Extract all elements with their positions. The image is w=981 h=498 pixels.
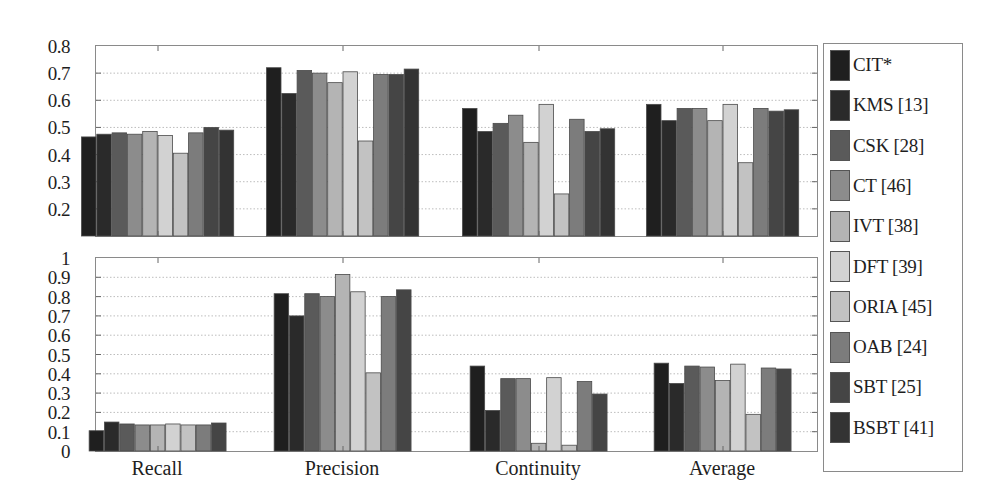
bar-precision-ivt [328,83,343,236]
bar-precision-cit [267,68,282,236]
legend-item: DFT [39] [830,251,923,283]
bar-average-oria [746,414,761,451]
y-tick-label: 0.8 [48,287,70,306]
bar-recall-ivt [143,132,158,237]
bar-continuity-oab [577,382,592,451]
bar-average-oria [738,163,753,236]
legend-label: DFT [39] [853,256,923,278]
legend-label: KMS [13] [853,94,928,116]
legend-swatch-icon [830,211,850,242]
legend-item: IVT [38] [830,210,918,242]
chart-legend: CIT*KMS [13]CSK [28]CT [46]IVT [38]DFT [… [823,43,963,472]
y-tick-label: 0.8 [48,37,70,56]
bar-average-ivt [708,121,723,236]
legend-label: OAB [24] [853,336,927,358]
legend-swatch-icon [830,251,850,282]
bar-average-kms [669,383,684,451]
y-tick-label: 0.6 [48,91,70,110]
bar-continuity-oria [554,194,569,236]
bar-precision-ivt [335,274,350,451]
y-tick-label: 0.5 [48,118,70,137]
bar-average-oab [754,108,769,236]
y-tick-label: 0.2 [48,199,70,218]
bar-precision-kms [282,94,297,237]
bar-recall-bsbt [219,130,234,236]
bar-continuity-sbt [585,132,600,237]
bar-precision-ct [312,73,327,236]
bar-precision-cit [274,294,289,451]
bar-average-ivt [715,381,730,451]
legend-item: BSBT [41] [830,412,934,444]
legend-label: SBT [25] [853,376,922,398]
bar-continuity-kms [478,132,493,237]
bar-recall-oab [189,133,204,236]
bar-precision-ct [320,297,335,451]
legend-item: ORIA [45] [830,291,932,323]
top-bar-chart-panel [95,45,818,237]
bar-continuity-csk [493,123,508,236]
legend-swatch-icon [830,412,850,443]
y-tick-label: 1 [61,249,70,268]
bar-recall-ct [127,134,141,236]
y-tick-label: 0.7 [48,64,70,83]
bar-continuity-ct [508,115,523,236]
y-tick-label: 0.7 [48,306,70,325]
legend-label: CIT* [853,54,892,76]
bottom-bar-chart-panel [95,257,818,452]
x-label-average: Average [689,457,755,480]
y-tick-label: 0.9 [48,268,70,287]
x-label-precision: Precision [305,457,379,480]
y-tick-label: 0 [61,442,70,461]
bar-recall-dft [166,424,181,451]
bar-recall-dft [158,136,173,236]
bar-recall-oria [173,153,188,236]
bar-precision-csk [297,70,312,236]
x-label-recall: Recall [131,457,182,480]
y-tick-label: 0.3 [48,172,70,191]
bar-average-sbt [777,369,792,451]
y-tick-label: 0.4 [48,145,70,164]
bar-recall-kms [97,134,112,236]
bar-average-cit [654,363,669,451]
bar-precision-bsbt [404,69,419,236]
bar-precision-dft [343,72,358,236]
bar-continuity-oab [570,119,585,236]
bar-continuity-dft [547,378,562,451]
bar-recall-ct [135,425,150,451]
bar-precision-sbt [389,75,404,237]
legend-swatch-icon [830,332,850,363]
legend-swatch-icon [830,170,850,201]
bar-average-dft [731,364,746,451]
bottom-bar-chart-plot [96,258,819,453]
legend-label: BSBT [41] [853,417,934,439]
y-tick-label: 0.1 [48,422,70,441]
bar-average-oab [761,368,776,451]
bar-continuity-oria [562,445,577,451]
y-tick-label: 0.3 [48,384,70,403]
bar-recall-cit [89,431,104,451]
bar-precision-kms [289,316,304,451]
legend-label: CSK [28] [853,135,924,157]
y-tick-label: 0.2 [48,403,70,422]
bar-recall-csk [112,133,127,236]
legend-label: CT [46] [853,175,911,197]
legend-item: KMS [13] [830,89,928,121]
bar-precision-oria [366,373,381,451]
bar-average-ct [692,108,707,236]
bar-average-sbt [769,111,784,236]
legend-item: CIT* [830,49,892,81]
bar-average-ct [700,367,715,451]
bar-continuity-cit [470,366,485,451]
legend-label: IVT [38] [853,215,918,237]
bar-recall-cit [82,137,97,236]
bar-continuity-ct [516,379,531,451]
y-tick-label: 0.6 [48,326,70,345]
bar-continuity-ivt [524,142,539,236]
y-tick-label: 0.5 [48,345,70,364]
bar-average-bsbt [784,110,799,236]
bar-continuity-cit [463,108,478,236]
bar-recall-oria [181,425,196,451]
bar-recall-csk [120,424,135,451]
bar-recall-sbt [212,423,227,451]
bar-precision-sbt [397,290,412,451]
